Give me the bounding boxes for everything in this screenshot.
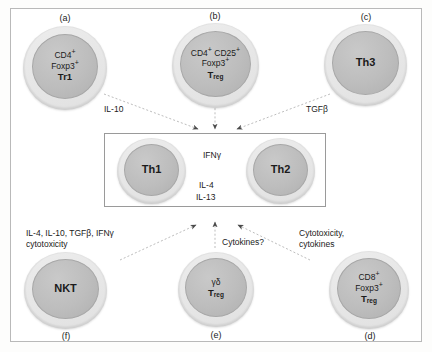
cell-tr1-line-1: CD4+ — [54, 50, 75, 60]
label-nkt-line-1: IL-4, IL-10, TGFβ, IFNγ — [26, 228, 114, 239]
label-ifng: IFNγ — [203, 150, 221, 161]
cell-cd8-treg-line-1: CD8+ — [358, 272, 379, 282]
cell-th2-label: Th2 — [271, 163, 291, 176]
cell-gd-treg-nucleus: γδ Treg — [185, 258, 247, 317]
cell-tr1-line-2: Foxp3+ — [51, 61, 79, 71]
cell-cd8-treg-nucleus: CD8+ Foxp3+ Treg — [337, 258, 401, 319]
label-tgfb: TGFβ — [306, 104, 328, 115]
cell-th1-nucleus: Th1 — [124, 144, 179, 196]
cell-cd4-cd25-treg-nucleus: CD4+ CD25+ Foxp3+ Treg — [180, 31, 251, 97]
label-il13: IL-13 — [196, 192, 215, 203]
cell-tr1[interactable]: CD4+ Foxp3+ Tr1 — [23, 26, 107, 110]
panel-letter-a: (a) — [50, 13, 80, 23]
cell-gd-treg-line-2: Treg — [208, 287, 224, 299]
label-il10: IL-10 — [104, 104, 123, 115]
label-cd8-cytotoxicity: Cytotoxicity, cytokines — [299, 228, 344, 250]
panel-letter-e: (e) — [201, 330, 231, 340]
arrow-box-to-nkt — [120, 225, 196, 260]
cell-th2-nucleus: Th2 — [253, 144, 308, 196]
label-il4: IL-4 — [199, 180, 214, 191]
cell-th3-nucleus: Th3 — [332, 31, 399, 95]
cell-cd8-treg-line-2: Foxp3+ — [355, 283, 383, 293]
cell-cd4-cd25-treg[interactable]: CD4+ CD25+ Foxp3+ Treg — [172, 23, 259, 108]
label-cytokines-question: Cytokines? — [222, 237, 264, 248]
label-cd8-line-1: Cytotoxicity, — [299, 228, 344, 239]
label-nkt-cytokines: IL-4, IL-10, TGFβ, IFNγ cytotoxicity — [26, 228, 114, 250]
cell-cd8-treg[interactable]: CD8+ Foxp3+ Treg — [329, 251, 409, 329]
cell-tr1-line-3: Tr1 — [58, 71, 72, 83]
cell-th1[interactable]: Th1 — [117, 138, 186, 204]
cell-th3-label: Th3 — [356, 56, 376, 69]
cell-nkt[interactable]: NKT — [24, 252, 107, 329]
panel-letter-f: (f) — [51, 331, 81, 341]
cell-th3[interactable]: Th3 — [324, 24, 407, 106]
cell-th1-label: Th1 — [142, 163, 162, 176]
figure-canvas: CD4+ Foxp3+ Tr1 (a) CD4+ CD25+ Foxp3+ Tr… — [0, 0, 432, 352]
cell-th2[interactable]: Th2 — [246, 138, 315, 204]
cell-treg-line-1: CD4+ CD25+ — [191, 48, 240, 58]
label-cd8-line-2: cytokines — [299, 239, 344, 250]
cell-cd8-treg-line-3: Treg — [361, 293, 377, 305]
panel-letter-d: (d) — [355, 331, 385, 341]
panel-letter-c: (c) — [351, 12, 381, 22]
cell-treg-line-2: Foxp3+ — [202, 58, 230, 68]
cell-treg-line-3: Treg — [208, 69, 224, 81]
panel-letter-b: (b) — [200, 11, 230, 21]
cell-tr1-nucleus: CD4+ Foxp3+ Tr1 — [32, 34, 98, 99]
cell-nkt-nucleus: NKT — [32, 259, 99, 319]
cell-nkt-label: NKT — [54, 282, 77, 295]
cell-gd-treg[interactable]: γδ Treg — [178, 252, 254, 327]
label-nkt-line-2: cytotoxicity — [26, 239, 114, 250]
cell-gd-treg-line-1: γδ — [212, 277, 221, 287]
